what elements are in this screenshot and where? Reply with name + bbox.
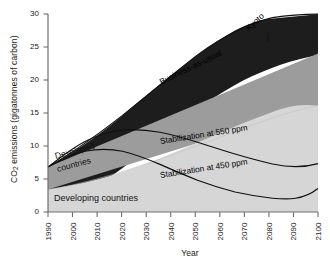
x-axis-ticks (48, 212, 318, 217)
y-tick-label-15: 15 (17, 108, 39, 117)
x-tick-label-2070: 2070 (240, 219, 249, 245)
x-tick-label-1990: 1990 (44, 219, 53, 245)
y-axis-title-subscript: 2 (12, 166, 19, 170)
x-tick-label-2010: 2010 (93, 219, 102, 245)
x-tick-label-2080: 2080 (264, 219, 273, 245)
x-axis-title: Year (160, 248, 220, 258)
y-tick-label-30: 30 (17, 9, 39, 18)
chart-figure: CO2 emissions (gigatonnes of carbon) Yea… (0, 0, 330, 264)
x-tick-label-2090: 2090 (289, 219, 298, 245)
x-tick-label-2040: 2040 (166, 219, 175, 245)
x-tick-label-2020: 2020 (117, 219, 126, 245)
y-tick-label-0: 0 (17, 207, 39, 216)
x-tick-label-2030: 2030 (142, 219, 151, 245)
y-axis-ticks (44, 14, 49, 212)
x-tick-label-2050: 2050 (191, 219, 200, 245)
y-tick-label-5: 5 (17, 174, 39, 183)
annotation-developing-countries: Developing countries (54, 193, 138, 203)
y-tick-label-10: 10 (17, 141, 39, 150)
x-tick-label-2100: 2100 (313, 219, 322, 245)
y-tick-label-25: 25 (17, 42, 39, 51)
y-tick-label-20: 20 (17, 75, 39, 84)
x-tick-label-2060: 2060 (215, 219, 224, 245)
x-tick-label-2000: 2000 (68, 219, 77, 245)
